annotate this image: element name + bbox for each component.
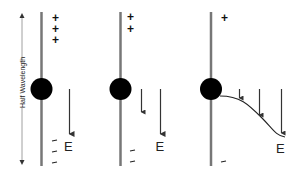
charge-ball — [110, 78, 132, 100]
panel-3: + E — [200, 11, 285, 166]
dipole-diagram: Half Wavelength + + + E + + E + E — [0, 0, 297, 174]
charge-ball — [200, 78, 222, 100]
arrow-up-icon — [20, 13, 25, 18]
minus-charge — [130, 161, 135, 162]
arrow-down-icon — [20, 160, 25, 165]
minus-charge — [52, 162, 57, 163]
e-field-label: E — [64, 139, 73, 154]
minus-charge — [130, 150, 135, 151]
minus-charge — [221, 161, 226, 162]
e-field-label: E — [156, 139, 165, 154]
charge-ball — [31, 78, 53, 100]
e-field-label: E — [276, 141, 285, 156]
panel-1: + + + E — [31, 11, 74, 166]
plus-charge: + — [221, 11, 228, 25]
minus-charge — [52, 140, 57, 141]
plus-charge: + — [127, 22, 134, 36]
half-wavelength-dimension: Half Wavelength — [19, 13, 27, 165]
panel-2: + + E — [110, 10, 165, 166]
plus-charge: + — [52, 33, 59, 47]
half-wavelength-label: Half Wavelength — [19, 57, 27, 108]
minus-charge — [52, 151, 57, 152]
field-curve — [220, 96, 285, 137]
